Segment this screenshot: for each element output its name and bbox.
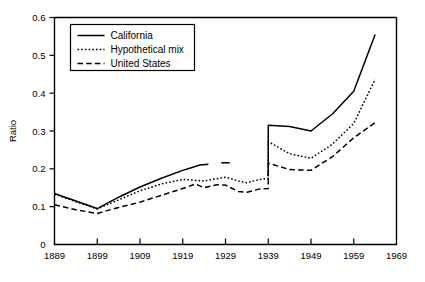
y-tick-label: 0.3 (32, 126, 45, 137)
y-tick-label: 0.4 (32, 88, 45, 99)
legend-label: Hypothetical mix (111, 44, 184, 55)
x-tick-label: 1919 (172, 250, 193, 261)
legend-label: United States (111, 58, 171, 69)
series-path (268, 35, 375, 177)
y-tick-label: 0 (40, 239, 45, 250)
x-tick-label: 1939 (258, 250, 279, 261)
y-tick-label: 0.6 (32, 12, 45, 23)
y-axis-title: Ratio (7, 120, 18, 142)
y-tick-label: 0.1 (32, 201, 45, 212)
series-path (55, 164, 209, 208)
line-chart: 00.10.20.30.40.50.6188918991909191919291… (0, 0, 425, 282)
x-tick-label: 1909 (129, 250, 150, 261)
x-tick-label: 1929 (215, 250, 236, 261)
y-tick-label: 0.5 (32, 50, 45, 61)
legend-label: California (111, 30, 154, 41)
legend: CaliforniaHypothetical mixUnited States (71, 25, 195, 71)
x-tick-label: 1959 (343, 250, 364, 261)
x-tick-label: 1889 (44, 250, 65, 261)
series-united-states (55, 123, 376, 214)
series-hypothetical-mix (55, 79, 376, 209)
series-path (55, 79, 376, 209)
x-tick-label: 1949 (300, 250, 321, 261)
x-tick-label: 1969 (386, 250, 407, 261)
y-tick-label: 0.2 (32, 163, 45, 174)
series-path (55, 123, 376, 214)
x-tick-label: 1899 (87, 250, 108, 261)
chart-container: 00.10.20.30.40.50.6188918991909191919291… (0, 0, 425, 282)
